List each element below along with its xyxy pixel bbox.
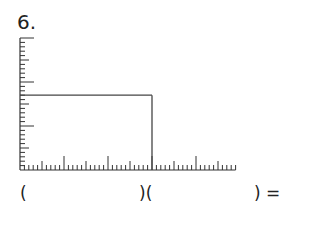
equation-open-paren: ( [20,183,27,203]
equation-middle-parens: )( [139,183,152,203]
area-rectangle [20,95,152,170]
equation-close-equals: ) = [254,183,280,203]
axes [20,38,236,170]
